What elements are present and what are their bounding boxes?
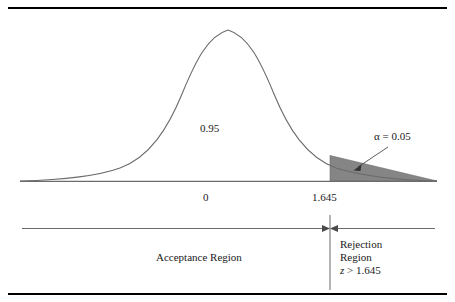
normal-curve <box>20 30 437 181</box>
acceptance-measure-arrowhead <box>322 225 330 232</box>
acceptance-area-label: 0.95 <box>200 122 219 135</box>
acceptance-region-label: Acceptance Region <box>156 251 242 264</box>
axis-tick-label-zero: 0 <box>203 191 209 204</box>
axis-tick-label-critical: 1.645 <box>312 191 337 204</box>
alpha-value-label: α = 0.05 <box>374 130 411 143</box>
z-statistic-threshold: > 1.645 <box>344 264 380 276</box>
rejection-region-condition: z > 1.645 <box>340 264 382 277</box>
alpha-leader-line <box>358 147 388 167</box>
rejection-region-label-line2: Region <box>340 251 382 264</box>
rejection-measure-arrowhead <box>330 225 338 232</box>
rejection-region-label: Rejection Region z > 1.645 <box>340 238 382 277</box>
statistics-figure: 0.95 α = 0.05 0 1.645 Acceptance Region … <box>0 0 455 302</box>
rejection-region-label-line1: Rejection <box>340 238 382 251</box>
